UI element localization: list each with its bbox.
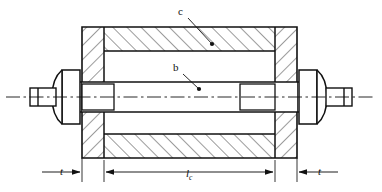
leader-c-dot — [210, 42, 214, 46]
callout-label-b: b — [173, 62, 179, 73]
callout-label-c: c — [178, 6, 183, 17]
dimension-label-t-left: t — [60, 166, 63, 177]
right-flange-lower-hatch — [275, 112, 297, 158]
leader-b-dot — [197, 87, 201, 91]
figure-canvas: c b t lc t — [0, 0, 382, 192]
lower-tube-wall-hatch — [104, 134, 275, 158]
right-flange-upper-hatch — [275, 27, 297, 82]
dimension-label-lc: lc — [186, 168, 192, 182]
dimension-label-lc-subscript: c — [189, 173, 192, 182]
dimension-label-t-right: t — [318, 166, 321, 177]
left-flange-lower-hatch — [82, 112, 104, 158]
engineering-drawing — [0, 0, 382, 192]
left-flange-upper-hatch — [82, 27, 104, 82]
upper-tube-wall-hatch — [104, 27, 275, 51]
